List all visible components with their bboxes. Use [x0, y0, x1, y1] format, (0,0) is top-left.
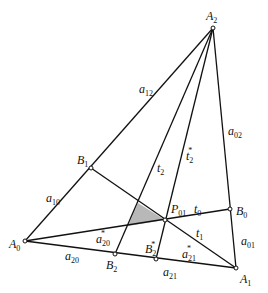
label-t1: t1	[196, 226, 203, 242]
label-P01: P01	[170, 202, 186, 218]
point-A2	[211, 26, 215, 30]
side-a20	[25, 241, 236, 268]
label-a20: a20	[65, 249, 79, 265]
point-A0	[23, 239, 27, 243]
label-B0: B0	[236, 204, 247, 220]
point-B0	[228, 207, 232, 211]
triangle-diagram: A2 A0 A1 B0 B1 B2 B2* P01 a12 a02 a01 a1…	[0, 0, 268, 293]
point-B2	[113, 252, 117, 256]
point-B1	[89, 166, 93, 170]
label-a20star: a20*	[96, 229, 110, 248]
point-A1	[234, 266, 238, 270]
label-B2: B2	[106, 258, 117, 274]
label-a01: a01	[241, 234, 255, 250]
cevian-t2star	[156, 28, 213, 259]
label-a21star: a21*	[182, 244, 196, 263]
label-a21: a21	[163, 265, 177, 281]
label-a10: a10	[46, 191, 60, 207]
side-a01	[213, 28, 236, 268]
label-A1: A1	[239, 272, 251, 288]
label-a12: a12	[139, 82, 153, 98]
label-a02: a02	[228, 124, 242, 140]
label-B2star: B2*	[145, 240, 156, 258]
point-P01	[163, 218, 167, 222]
label-A0: A0	[8, 237, 20, 253]
label-A2: A2	[205, 9, 217, 25]
label-t0: t0	[194, 202, 201, 218]
label-t2: t2	[157, 161, 164, 177]
label-t2star: t2*	[186, 146, 193, 165]
label-B1: B1	[77, 153, 88, 169]
